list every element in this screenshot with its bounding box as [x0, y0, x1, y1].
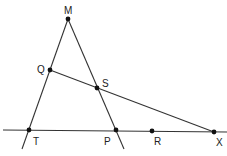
point-R [150, 129, 155, 134]
label-P: P [104, 136, 111, 147]
label-M: M [64, 5, 72, 16]
label-Q: Q [37, 64, 45, 75]
point-S [95, 86, 100, 91]
label-R: R [154, 136, 161, 147]
label-S: S [102, 78, 109, 89]
point-M [66, 17, 71, 22]
point-X [212, 130, 217, 135]
point-T [27, 128, 32, 133]
point-Q [48, 68, 53, 73]
label-T: T [33, 136, 39, 147]
label-X: X [216, 137, 223, 148]
geometry-diagram: M Q S T P R X [0, 0, 227, 156]
segment-QX [50, 70, 214, 132]
point-P [114, 128, 119, 133]
